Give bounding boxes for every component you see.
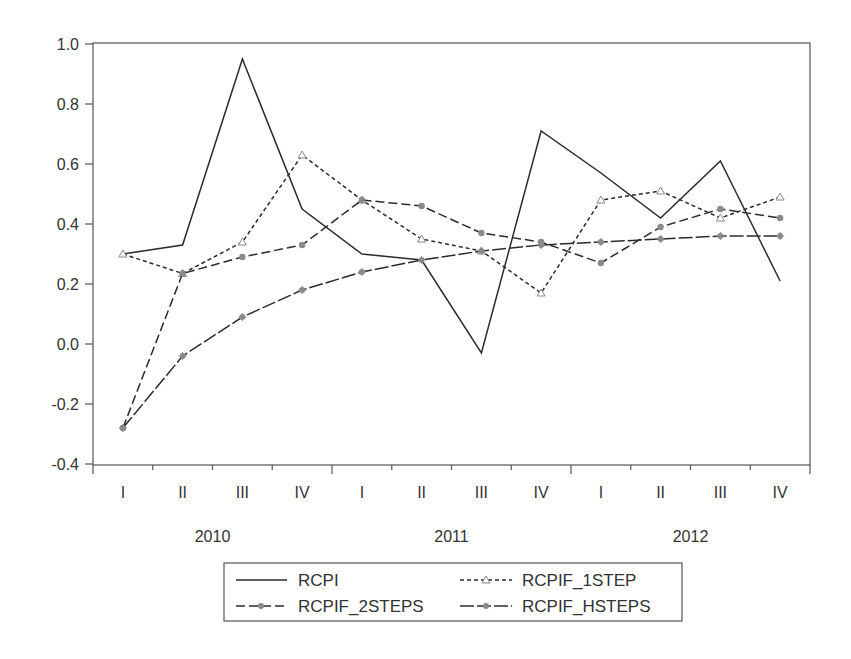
circle-marker-icon <box>598 260 604 266</box>
x-tick-label: II <box>656 484 665 501</box>
star-marker-spokes <box>776 232 784 240</box>
series-line <box>123 155 780 293</box>
triangle-marker-icon <box>298 151 306 158</box>
x-tick-label: II <box>178 484 187 501</box>
y-tick-label: -0.4 <box>51 456 79 473</box>
y-tick-label: 0.2 <box>57 276 79 293</box>
circle-marker-icon <box>657 224 663 230</box>
y-tick-label: -0.2 <box>51 396 79 413</box>
star-marker-spokes <box>358 268 366 276</box>
series-rcpif-1step <box>119 151 784 296</box>
star-marker-spokes <box>597 238 605 246</box>
x-tick-label: III <box>236 484 249 501</box>
x-tick-label: III <box>475 484 488 501</box>
circle-marker-icon <box>359 197 365 203</box>
circle-marker-icon <box>777 215 783 221</box>
y-axis: 1.00.80.60.40.20.0-0.2-0.4 <box>51 36 93 473</box>
y-tick-label: 0.0 <box>57 336 79 353</box>
series-rcpif-hsteps <box>119 232 784 432</box>
circle-marker-icon <box>717 206 723 212</box>
star-marker-spokes <box>238 313 246 321</box>
series-rcpi <box>123 59 780 353</box>
x-tick-label: I <box>599 484 603 501</box>
plot-area <box>93 43 810 465</box>
star-marker-spokes <box>298 286 306 294</box>
plot-frame <box>93 43 810 465</box>
circle-marker-icon <box>239 254 245 260</box>
x-tick-label: II <box>417 484 426 501</box>
x-year-label: 2011 <box>434 528 469 545</box>
x-tick-label: IV <box>534 484 549 501</box>
x-tick-label: IV <box>773 484 788 501</box>
circle-marker-icon <box>179 270 185 276</box>
triangle-marker-icon <box>537 289 545 296</box>
triangle-marker-icon <box>418 235 426 242</box>
series-layer <box>119 59 784 432</box>
triangle-marker-icon <box>657 187 665 194</box>
line-chart: 1.00.80.60.40.20.0-0.2-0.4 IIIIIIIVIIIII… <box>0 0 851 659</box>
circle-marker-icon <box>478 230 484 236</box>
x-tick-label: III <box>714 484 727 501</box>
legend-label: RCPIF_1STEP <box>522 571 636 590</box>
x-tick-label: I <box>121 484 125 501</box>
series-rcpif-2steps <box>120 197 784 431</box>
star-marker-spokes <box>716 232 724 240</box>
legend-label: RCPIF_HSTEPS <box>522 597 650 616</box>
x-year-label: 2012 <box>673 528 709 545</box>
star-marker-spokes <box>418 256 426 264</box>
series-line <box>123 236 780 428</box>
legend-label: RCPIF_2STEPS <box>298 597 424 616</box>
y-tick-label: 0.8 <box>57 96 79 113</box>
x-tick-label: IV <box>295 484 310 501</box>
series-line <box>123 59 780 353</box>
circle-marker-icon <box>299 242 305 248</box>
triangle-marker-icon <box>776 193 784 200</box>
series-line <box>123 200 780 428</box>
y-tick-label: 0.6 <box>57 156 79 173</box>
triangle-marker-icon <box>597 196 605 203</box>
legend: RCPI RCPIF_1STEP RCPIF_2STEPS RCPIF_HSTE… <box>224 563 682 621</box>
star-marker-spokes <box>657 235 665 243</box>
star-marker-icon <box>483 603 489 609</box>
x-tick-label: I <box>360 484 364 501</box>
circle-marker-icon <box>258 603 264 609</box>
y-tick-label: 0.4 <box>57 216 79 233</box>
legend-label: RCPI <box>298 571 339 590</box>
x-axis: IIIIIIIVIIIIIIIVIIIIIIIV201020112012 <box>93 465 810 545</box>
y-tick-label: 1.0 <box>57 36 79 53</box>
x-year-label: 2010 <box>195 528 231 545</box>
circle-marker-icon <box>418 203 424 209</box>
